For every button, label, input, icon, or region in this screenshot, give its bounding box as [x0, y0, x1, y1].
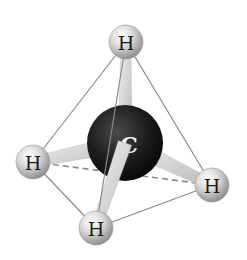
tetrahedron-svg: C HHHH — [0, 0, 247, 260]
hydrogen-label: H — [25, 152, 42, 174]
hydrogen-atom-left: H — [16, 145, 50, 179]
hydrogen-label: H — [118, 32, 135, 54]
hydrogen-atom-top: H — [109, 25, 143, 59]
methane-diagram: C HHHH — [0, 0, 247, 260]
hydrogen-label: H — [88, 218, 105, 240]
hydrogen-atom-bottom: H — [79, 211, 113, 245]
hydrogen-atom-right: H — [195, 168, 229, 202]
hydrogen-label: H — [204, 175, 221, 197]
